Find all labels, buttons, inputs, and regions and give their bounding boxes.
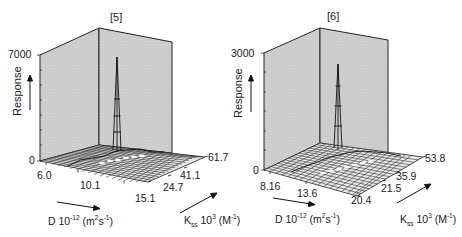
left-wall bbox=[40, 28, 99, 161]
y-arrow-icon bbox=[425, 184, 432, 190]
z-axis-label: Response bbox=[12, 66, 23, 116]
y-tick-1: 35.9 bbox=[396, 171, 416, 182]
x-tick-1: 13.6 bbox=[297, 188, 317, 199]
z-axis-label: Response bbox=[233, 68, 244, 118]
x-arrow-icon bbox=[309, 202, 316, 207]
y-arrow-icon bbox=[211, 193, 218, 199]
y-tick-0: 24.7 bbox=[163, 182, 183, 193]
x-axis-label: D 10-12 (m2s-1) bbox=[48, 215, 113, 226]
y-axis-label: Kss 103 (M-1) bbox=[400, 213, 456, 227]
plot-panel-5: [5] 7000 0 Response 6.0 10.1 15.1 24.7 4… bbox=[0, 0, 231, 237]
x-tick-1: 10.1 bbox=[80, 180, 100, 191]
z-arrow-icon bbox=[249, 75, 254, 81]
x-tick-2: 15.1 bbox=[135, 193, 155, 204]
y-tick-0: 21.5 bbox=[381, 183, 401, 194]
z-tick-top: 7000 bbox=[8, 49, 31, 60]
x-tick-2: 20.4 bbox=[351, 195, 371, 206]
y-tick-1: 41.1 bbox=[180, 170, 200, 181]
back-wall bbox=[320, 28, 388, 157]
panel-title: [6] bbox=[327, 11, 339, 22]
z-tick-bottom: 0 bbox=[253, 165, 259, 176]
z-tick-top: 3000 bbox=[231, 48, 254, 59]
x-axis-label: D 10-12 (m2s-1) bbox=[275, 213, 340, 224]
x-arrow-icon bbox=[94, 206, 101, 211]
plot-panel-6: [6] 3000 0 Response 8.16 13.6 20.4 21.5 … bbox=[231, 0, 462, 237]
y-tick-2: 53.8 bbox=[425, 153, 445, 164]
surface-plot-5 bbox=[0, 0, 231, 237]
y-tick-2: 61.7 bbox=[208, 152, 228, 163]
surface-plot-6 bbox=[231, 0, 462, 237]
x-tick-0: 8.16 bbox=[260, 181, 280, 192]
z-tick-bottom: 0 bbox=[29, 155, 35, 166]
back-wall bbox=[99, 28, 172, 153]
panel-title: [5] bbox=[110, 12, 122, 23]
x-tick-0: 6.0 bbox=[37, 170, 52, 181]
z-arrow-icon bbox=[28, 75, 33, 81]
